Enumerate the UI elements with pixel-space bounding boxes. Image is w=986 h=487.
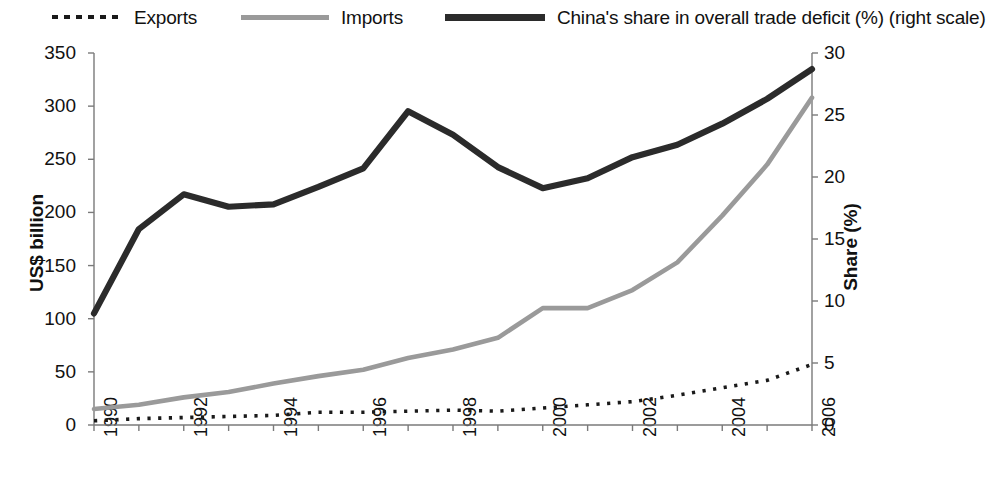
series-line-exports xyxy=(94,364,812,420)
axis-lines xyxy=(88,53,818,431)
series-layer xyxy=(94,69,812,421)
series-line-imports xyxy=(94,98,812,409)
series-line-chinas xyxy=(94,69,812,313)
